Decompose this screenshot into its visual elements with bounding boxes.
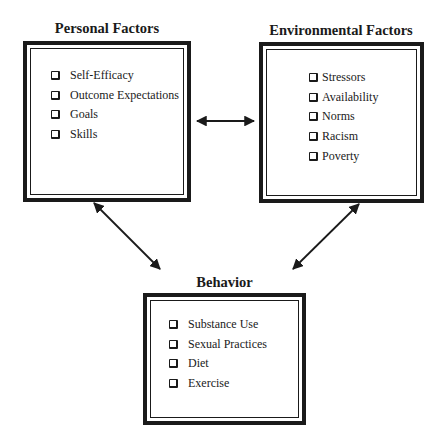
double-arrow-environmental-behavior-icon <box>293 204 359 269</box>
double-arrow-personal-behavior-icon <box>94 203 160 269</box>
arrows-layer <box>0 0 445 447</box>
